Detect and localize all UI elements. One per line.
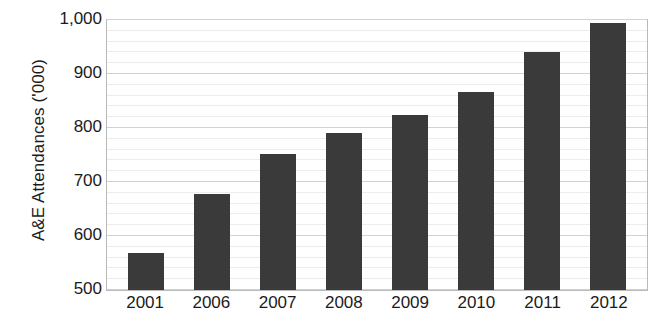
bar-slot [245,20,311,290]
bar-slot [113,20,179,290]
x-axis-tick-labels: 20012006200720082009201020112012 [106,293,648,323]
bar-2010 [458,92,494,290]
bar-series [107,20,647,290]
bar-slot [509,20,575,290]
bar-slot [443,20,509,290]
y-axis-tick-label: 900 [74,63,102,83]
bar-chart: A&E Attendances ('000) 5006007008009001,… [0,0,658,328]
y-axis-tick-label: 1,000 [59,9,102,29]
x-axis-tick-label-2012: 2012 [576,293,642,323]
bar-2009 [392,115,428,290]
bar-slot [311,20,377,290]
x-axis-tick-label-2007: 2007 [245,293,311,323]
bar-slot [179,20,245,290]
x-axis-tick-label-2011: 2011 [510,293,576,323]
x-axis-tick-label-2009: 2009 [377,293,443,323]
x-axis-tick-label-2006: 2006 [178,293,244,323]
bar-slot [377,20,443,290]
y-axis-tick-label: 600 [74,225,102,245]
bar-slot [575,20,641,290]
plot-area [106,19,648,291]
bar-2006 [194,194,230,290]
bar-2008 [326,133,362,290]
bar-2001 [128,253,164,290]
x-axis-tick-label-2001: 2001 [112,293,178,323]
bar-2012 [590,23,626,290]
y-axis-tick-label: 800 [74,117,102,137]
bar-2011 [524,52,560,290]
y-axis-tick-label: 700 [74,171,102,191]
x-axis-tick-label-2008: 2008 [311,293,377,323]
bar-2007 [260,154,296,290]
x-axis-tick-label-2010: 2010 [443,293,509,323]
y-axis-tick-labels: 5006007008009001,000 [36,0,102,328]
y-axis-tick-label: 500 [74,279,102,299]
